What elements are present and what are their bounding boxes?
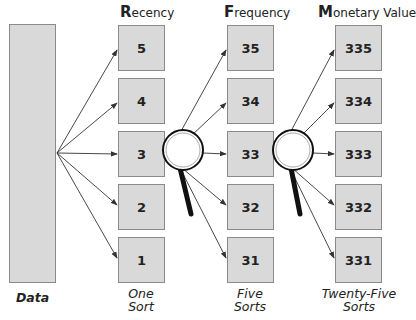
magnifier-icon	[163, 130, 203, 214]
data-label: Data	[9, 291, 56, 304]
footer-twenty-five-sorts: Twenty-Five Sorts	[318, 287, 400, 313]
footer-one-sort: One Sort	[106, 287, 176, 313]
footer-five-sorts: Five Sorts	[215, 287, 285, 313]
magnifier-icon	[273, 130, 313, 214]
